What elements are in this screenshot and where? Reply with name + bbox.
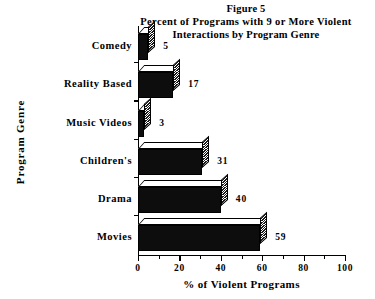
x-axis-minor-tick [324,255,325,259]
bar-front-face [138,187,221,213]
y-axis-tick [134,100,139,101]
y-axis-tick-label: Children's [2,155,132,166]
bar-front-face [138,111,144,137]
figure-number: Figure 5 [120,2,372,15]
x-axis-tick-label: 0 [135,263,140,273]
bar-side-face [221,174,228,206]
x-axis-title: % of Violent Programs [138,278,345,290]
bar-side-face [144,97,151,129]
x-axis-tick-label: 100 [337,263,353,273]
x-axis-major-tick [262,255,263,261]
y-axis-tick [134,139,139,140]
y-axis-tick-label: Drama [2,193,132,204]
x-axis-major-tick [304,255,305,261]
bar-value-label: 31 [217,156,228,166]
bar-value-label: 3 [159,118,165,128]
bar-front-face [138,149,202,175]
bar-value-label: 5 [163,41,169,51]
x-axis-minor-tick [283,255,284,259]
x-axis-tick-label: 60 [257,263,268,273]
x-axis-major-tick [179,255,180,261]
x-axis-major-tick [221,255,222,261]
y-axis-tick-label: Movies [2,231,132,242]
bar-value-label: 17 [188,79,199,89]
plot-area: 5173314059 020406080100 [138,26,345,255]
y-axis-tick-label: Reality Based [2,78,132,89]
x-axis-minor-tick [159,255,160,259]
bar-top-face [138,142,208,149]
bar-front-face [138,34,148,60]
x-axis-major-tick [345,255,346,261]
bar-side-face [173,59,180,91]
x-axis-minor-tick [200,255,201,259]
x-axis-minor-tick [242,255,243,259]
y-axis-tick-label: Music Videos [2,117,132,128]
y-axis-tick [134,177,139,178]
bar-value-label: 59 [275,232,286,242]
bar-value-label: 40 [236,194,247,204]
y-axis-tick-label: Comedy [2,40,132,51]
x-axis-major-tick [138,255,139,261]
bar-side-face [260,212,267,244]
bar-side-face [202,135,209,167]
bar-side-face [148,21,155,53]
y-axis-tick [134,62,139,63]
bar-top-face [138,180,227,187]
y-axis-tick [134,215,139,216]
x-axis-tick-label: 20 [174,263,185,273]
bar-front-face [138,225,260,251]
x-axis-tick-label: 80 [298,263,309,273]
bar-front-face [138,72,173,98]
y-axis-line [138,26,139,255]
x-axis-tick-label: 40 [215,263,226,273]
bar-top-face [138,218,266,225]
y-axis-tick-label-group: ComedyReality BasedMusic VideosChildren'… [0,26,132,255]
